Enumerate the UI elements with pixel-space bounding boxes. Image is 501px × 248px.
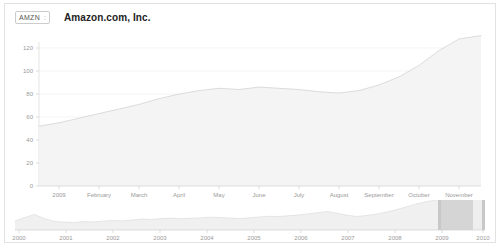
x-tick-2009: 2009 (52, 192, 66, 198)
ticker-symbol-label: AMZN (19, 12, 40, 23)
x-axis-group: 2009 February March April May June July … (39, 186, 481, 198)
y-tick-100: 100 (23, 68, 34, 74)
nav-year-2006: 2006 (294, 235, 308, 241)
ticker-badge[interactable]: AMZN : (15, 11, 50, 24)
navigator-axis-group: 2000 2001 2002 2003 2004 2005 2006 2007 … (12, 230, 490, 241)
y-tick-40: 40 (26, 137, 33, 143)
y-axis-group: 120 100 80 60 40 20 0 (23, 42, 39, 189)
y-tick-80: 80 (26, 91, 33, 97)
y-tick-120: 120 (23, 45, 34, 51)
x-tick-september: September (364, 192, 393, 198)
x-tick-june: June (252, 192, 266, 198)
y-tick-60: 60 (26, 114, 33, 120)
x-tick-july: July (294, 192, 305, 198)
navigator-handle-right[interactable] (482, 200, 485, 230)
nav-year-2005: 2005 (247, 235, 261, 241)
chart-header: AMZN : Amazon.com, Inc. (5, 4, 495, 30)
nav-year-2008: 2008 (388, 235, 402, 241)
range-navigator[interactable]: 2000 2001 2002 2003 2004 2005 2006 2007 … (5, 200, 497, 242)
x-tick-april: April (173, 192, 185, 198)
main-chart-plot[interactable]: 120 100 80 60 40 20 0 (5, 30, 497, 198)
nav-year-2003: 2003 (153, 235, 167, 241)
navigator-area-fill (15, 200, 473, 230)
navigator-handle-left[interactable] (438, 200, 441, 230)
nav-year-2000: 2000 (12, 235, 26, 241)
main-chart-svg: 120 100 80 60 40 20 0 (5, 30, 497, 198)
navigator-overview-series (15, 200, 473, 230)
x-tick-may: May (213, 192, 224, 198)
series-area-fill (39, 36, 481, 186)
y-tick-20: 20 (26, 160, 33, 166)
y-tick-0: 0 (30, 183, 34, 189)
nav-year-2004: 2004 (200, 235, 214, 241)
x-tick-october: October (408, 192, 429, 198)
navigator-svg: 2000 2001 2002 2003 2004 2005 2006 2007 … (5, 200, 497, 242)
x-tick-august: August (330, 192, 349, 198)
stock-chart-widget: AMZN : Amazon.com, Inc. (4, 3, 496, 243)
nav-year-2002: 2002 (106, 235, 120, 241)
series-amzn (39, 36, 481, 186)
x-tick-march: March (131, 192, 148, 198)
page-title: Amazon.com, Inc. (64, 12, 151, 23)
nav-year-2009: 2009 (435, 235, 449, 241)
x-tick-november: November (445, 192, 473, 198)
navigator-selection-mask[interactable] (438, 200, 485, 230)
ticker-separator-icon: : (44, 12, 46, 23)
nav-year-2001: 2001 (59, 235, 73, 241)
nav-year-2007: 2007 (341, 235, 355, 241)
nav-year-2010: 2010 (476, 235, 490, 241)
x-tick-february: February (87, 192, 111, 198)
